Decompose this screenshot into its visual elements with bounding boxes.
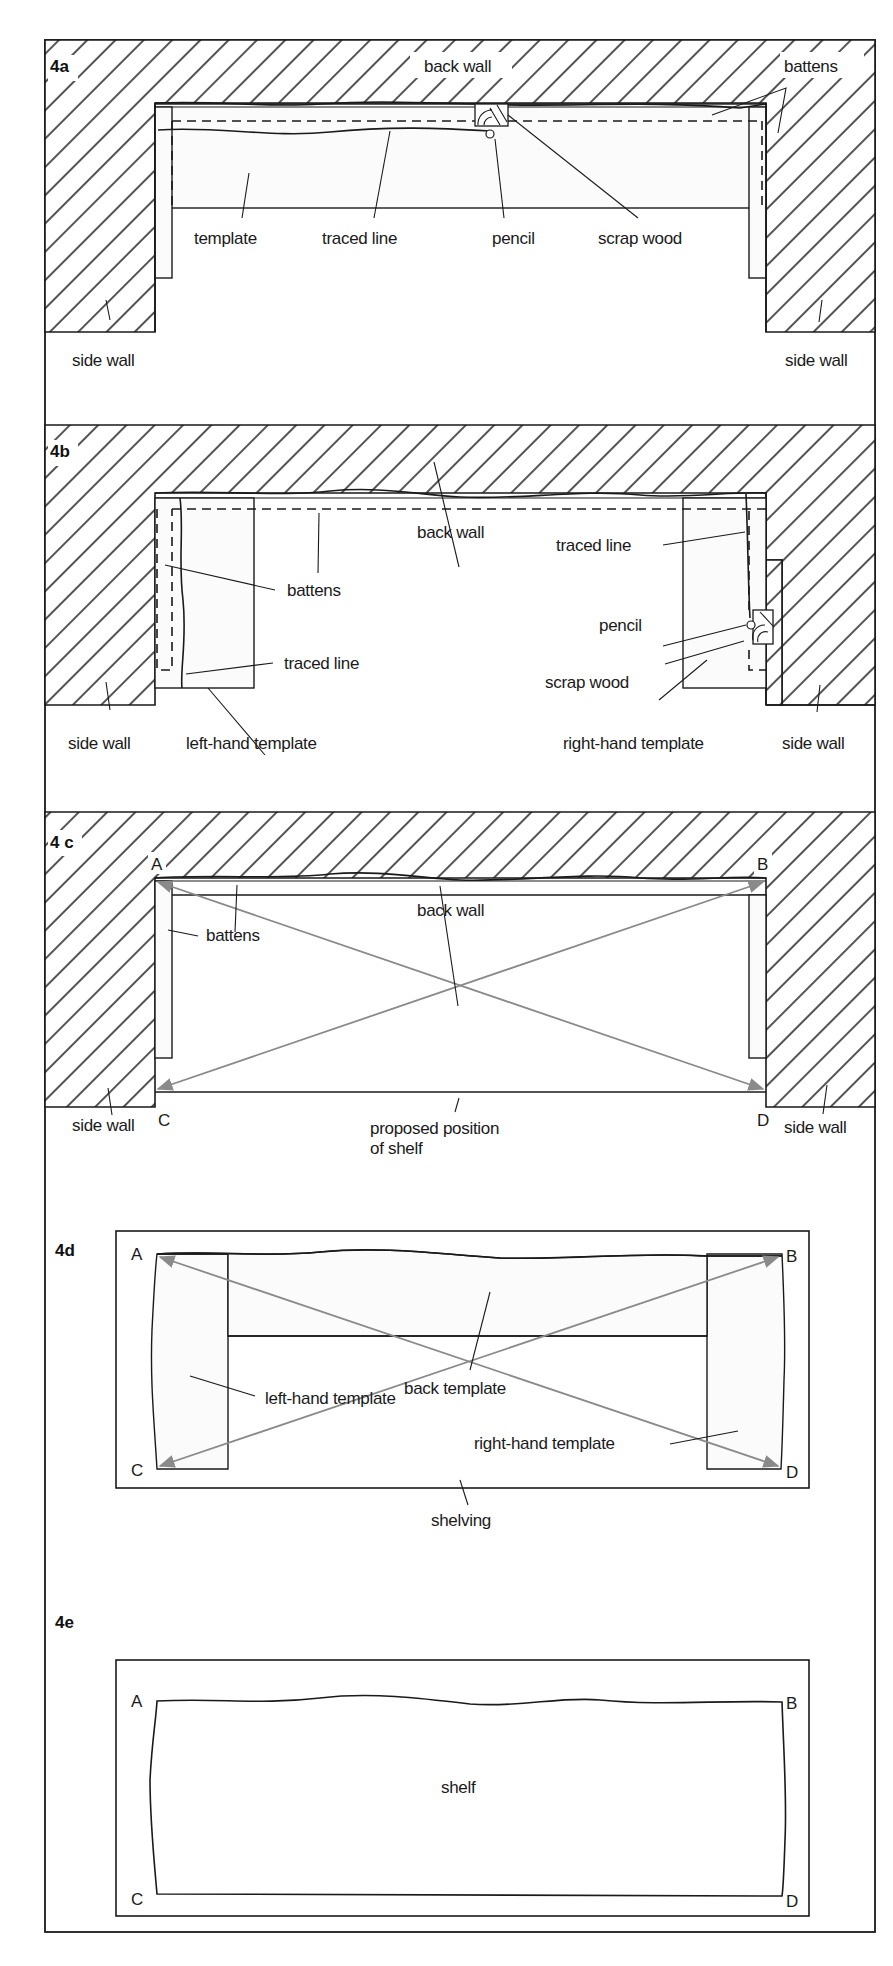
label-battens-4a: battens (784, 57, 838, 76)
panel-4b: 4b (45, 425, 875, 755)
label-back-template-4d: back template (404, 1379, 506, 1398)
label-side-wall-left-4b: side wall (68, 734, 131, 753)
label-battens-4c: battens (206, 926, 260, 945)
corner-a-4e: A (131, 1692, 143, 1711)
batten-right-4a (749, 107, 766, 278)
template-4a (155, 104, 766, 208)
label-side-wall-right-4b: side wall (782, 734, 845, 753)
corner-a-4c: A (151, 855, 163, 874)
right-template-4b (683, 498, 766, 688)
corner-b-4e: B (786, 1694, 797, 1713)
back-template-4d (157, 1250, 782, 1336)
pencil-4b (747, 621, 755, 629)
label-proposed-1-4c: proposed position (370, 1119, 499, 1138)
label-traced-line-4a: traced line (322, 229, 397, 248)
corner-b-4d: B (786, 1247, 797, 1266)
label-left-template-4d: left-hand template (265, 1389, 396, 1408)
label-side-wall-right-4a: side wall (785, 351, 848, 370)
corner-c-4e: C (131, 1890, 143, 1909)
label-scrap-wood-4a: scrap wood (598, 229, 682, 248)
panel-4a: 4a back wall battens template traced (45, 40, 875, 370)
figure-label-4e: 4e (55, 1613, 74, 1632)
corner-d-4d: D (786, 1463, 798, 1482)
batten-right-4c (749, 895, 766, 1058)
figure-label-4c: 4 c (50, 833, 74, 852)
figure-label-4d: 4d (55, 1241, 75, 1260)
corner-c-4c: C (158, 1111, 170, 1130)
panel-4e: 4e A B C D shelf (55, 1613, 809, 1916)
label-template-4a: template (194, 229, 257, 248)
left-template-4d (151, 1254, 228, 1469)
panel-4c: 4 c A B C D back wall battens proposed p… (45, 812, 875, 1158)
batten-left-4c (155, 881, 172, 1058)
corner-d-4e: D (786, 1892, 798, 1911)
label-battens-4b: battens (287, 581, 341, 600)
label-back-wall-4b: back wall (417, 523, 484, 542)
label-pencil-4a: pencil (492, 229, 535, 248)
label-proposed-2-4c: of shelf (370, 1139, 423, 1158)
panel-4d: 4d A B C D back template left-hand templ… (55, 1231, 809, 1530)
label-traced-line-right-4b: traced line (556, 536, 631, 555)
label-side-wall-right-4c: side wall (784, 1118, 847, 1137)
left-template-4b (155, 498, 254, 688)
right-template-4d (707, 1254, 785, 1469)
diagram-canvas: 4a back wall battens template traced (0, 0, 893, 1966)
corner-b-4c: B (757, 855, 768, 874)
pencil-4a (486, 130, 494, 138)
label-shelving-4d: shelving (431, 1511, 491, 1530)
label-right-template-4b: right-hand template (563, 734, 704, 753)
batten-left-4a (155, 107, 172, 278)
corner-c-4d: C (131, 1461, 143, 1480)
figure-label-4b: 4b (50, 442, 70, 461)
label-left-template-4b: left-hand template (186, 734, 317, 753)
corner-d-4c: D (757, 1111, 769, 1130)
figure-label-4a: 4a (50, 57, 69, 76)
label-shelf-4e: shelf (441, 1778, 476, 1797)
label-pencil-4b: pencil (599, 616, 642, 635)
label-right-template-4d: right-hand template (474, 1434, 615, 1453)
label-scrap-wood-4b: scrap wood (545, 673, 629, 692)
label-side-wall-left-4a: side wall (72, 351, 135, 370)
label-back-wall-4a: back wall (424, 57, 491, 76)
label-traced-line-left-4b: traced line (284, 654, 359, 673)
label-back-wall-4c: back wall (417, 901, 484, 920)
corner-a-4d: A (131, 1245, 143, 1264)
label-side-wall-left-4c: side wall (72, 1116, 135, 1135)
